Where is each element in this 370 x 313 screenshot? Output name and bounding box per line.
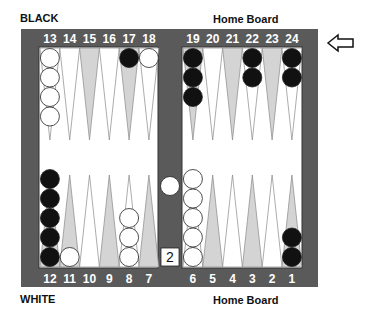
black-checker[interactable] [183,68,202,87]
point-number: 14 [63,32,77,46]
white-checker[interactable] [40,107,59,126]
black-checker[interactable] [40,209,59,228]
point-number: 1 [289,272,296,286]
white-checker[interactable] [120,209,139,228]
point-number: 2 [269,272,276,286]
point-number: 7 [146,272,153,286]
point-number: 18 [142,32,156,46]
black-checker[interactable] [282,49,301,68]
white-checker[interactable] [60,248,79,267]
black-checker[interactable] [40,170,59,189]
point-number: 16 [103,32,117,46]
point-number: 23 [265,32,279,46]
white-checker[interactable] [40,49,59,68]
point-number: 3 [249,272,256,286]
white-checker[interactable] [120,248,139,267]
point-number: 20 [206,32,220,46]
point-number: 21 [226,32,240,46]
black-checker[interactable] [183,49,202,68]
white-checker[interactable] [120,228,139,247]
black-checker[interactable] [243,68,262,87]
white-checker[interactable] [40,88,59,107]
bar-white-checker[interactable] [161,177,180,196]
arrow-left-icon [326,33,356,53]
point-number: 19 [186,32,200,46]
black-checker[interactable] [40,248,59,267]
point-number: 4 [229,272,236,286]
point-number: 13 [43,32,57,46]
black-checker[interactable] [40,189,59,208]
point-number: 5 [209,272,216,286]
point-number: 17 [122,32,136,46]
black-checker[interactable] [183,88,202,107]
white-checker[interactable] [183,248,202,267]
white-checker[interactable] [40,68,59,87]
black-checker[interactable] [282,248,301,267]
white-checker[interactable] [183,228,202,247]
point-number: 6 [190,272,197,286]
black-checker[interactable] [282,68,301,87]
black-checker[interactable] [120,49,139,68]
point-number: 8 [126,272,133,286]
white-checker[interactable] [183,170,202,189]
point-number: 9 [106,272,113,286]
backgammon-board: 131415161718192021222324121110987654321 … [0,0,370,313]
white-checker[interactable] [183,209,202,228]
black-checker[interactable] [40,228,59,247]
point-number: 15 [83,32,97,46]
point-number: 24 [285,32,299,46]
black-checker[interactable] [282,228,301,247]
white-checker[interactable] [139,49,158,68]
point-number: 11 [63,272,76,286]
point-number: 10 [83,272,97,286]
doubling-cube-value: 2 [166,249,174,265]
point-number: 12 [43,272,57,286]
white-checker[interactable] [183,189,202,208]
point-number: 22 [246,32,260,46]
black-checker[interactable] [243,49,262,68]
